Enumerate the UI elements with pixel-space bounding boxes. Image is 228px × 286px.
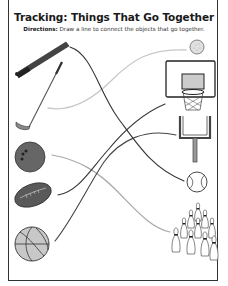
bowling-ball-icon[interactable] [15, 142, 45, 172]
worksheet-illustration [0, 0, 228, 286]
connection-lines [48, 47, 186, 241]
basketball-hoop-icon[interactable] [166, 61, 215, 110]
goalpost-icon[interactable] [180, 116, 210, 162]
line-basketball-to-goalpost[interactable] [55, 133, 176, 241]
football-icon[interactable] [11, 178, 54, 212]
basketball-icon[interactable] [15, 227, 49, 261]
baseball-bat-icon[interactable] [15, 42, 69, 78]
bowling-pins-icon[interactable] [172, 203, 218, 260]
line-golf-club-to-golf-ball[interactable] [48, 50, 186, 109]
golf-ball-icon[interactable] [190, 40, 204, 54]
baseball-icon[interactable] [187, 172, 207, 192]
line-football-to-hoop[interactable] [58, 104, 165, 195]
